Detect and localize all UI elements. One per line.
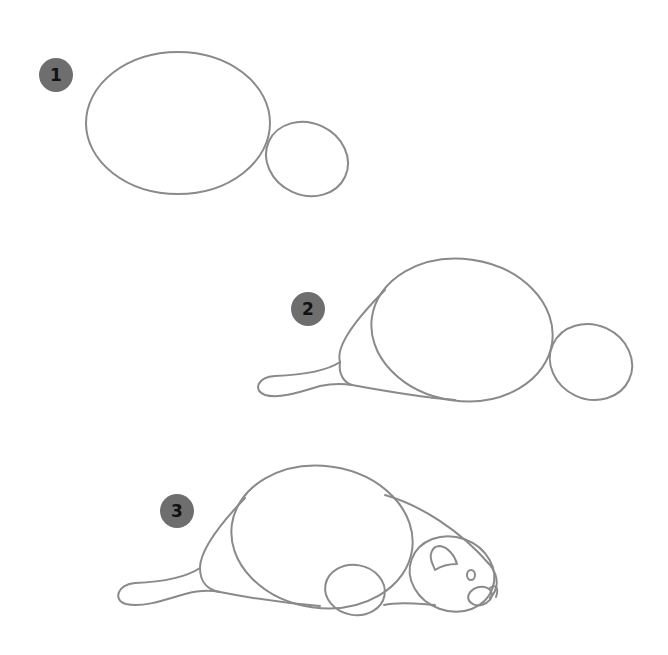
body-oval [222, 454, 422, 620]
step-number: 3 [171, 501, 183, 521]
ear-icon [431, 546, 457, 570]
step-2: 2 [258, 247, 645, 413]
eye-icon [467, 570, 475, 580]
step-1: 1 [39, 52, 360, 209]
tail [118, 568, 220, 605]
front-paw [321, 560, 389, 620]
haunch-contour [339, 290, 455, 400]
head-oval [399, 525, 505, 624]
body-oval [362, 247, 562, 413]
step-badge-2: 2 [291, 292, 325, 326]
step-badge-1: 1 [39, 58, 73, 92]
drawing-tutorial: 1 2 3 [0, 0, 668, 655]
haunch-contour [200, 498, 320, 606]
step-badge-3: 3 [160, 494, 194, 528]
head-oval [537, 311, 644, 414]
step-number: 1 [50, 65, 62, 85]
step-3: 3 [118, 454, 505, 623]
tail [258, 362, 352, 396]
body-oval [86, 52, 270, 194]
step-number: 2 [302, 299, 314, 319]
